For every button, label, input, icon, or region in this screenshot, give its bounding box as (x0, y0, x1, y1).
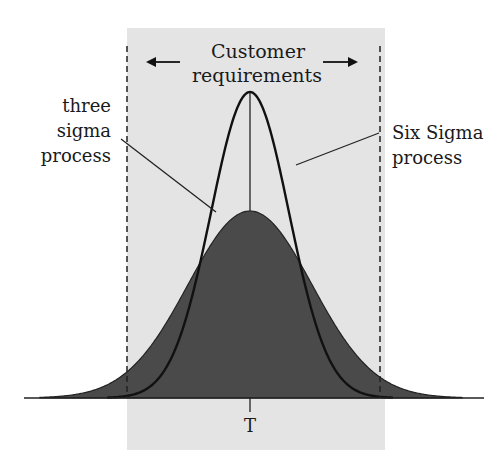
three-sigma-label-line3: process (41, 145, 111, 166)
three-sigma-label-line2: sigma (57, 120, 112, 141)
six-sigma-diagram: T Customer requirements three sigma proc… (0, 0, 502, 470)
three-sigma-label-line1: three (62, 95, 111, 116)
target-label: T (244, 415, 256, 436)
region-label-line2: requirements (192, 64, 322, 86)
region-label-line1: Customer (211, 40, 306, 62)
three-sigma-curve (40, 211, 462, 398)
six-sigma-label-line2: process (392, 147, 462, 168)
six-sigma-label-line1: Six Sigma (392, 122, 484, 143)
